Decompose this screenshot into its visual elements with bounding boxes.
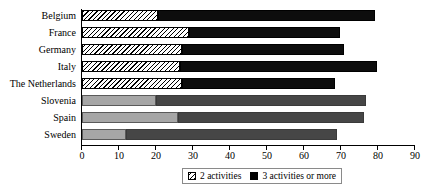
x-axis-tick-label: 80 [363,150,393,162]
black-swatch-icon [250,172,258,180]
bar-segment-three-or-more [180,61,377,72]
bar-segment-three-or-more [189,27,340,38]
bar-segment-three-or-more [126,129,337,140]
bar-segment-two-activities [82,44,182,55]
x-axis-tick-label: 0 [67,150,97,162]
x-axis-line [81,145,415,146]
bar-segment-two-activities [82,95,156,106]
legend-item-two-activities: 2 activities [188,171,241,181]
category-label-germany: Germany [0,44,76,55]
x-axis-tick-label: 60 [289,150,319,162]
category-label-belgium: Belgium [0,10,76,21]
legend-label: 3 activities or more [262,171,336,181]
bar-chart: Belgium France Germany Italy The Netherl… [0,0,432,194]
bar-segment-three-or-more [182,44,344,55]
bar-segment-two-activities [82,10,158,21]
x-axis-tick-label: 20 [141,150,171,162]
bar-segment-two-activities [82,61,180,72]
x-axis-tick-label: 30 [178,150,208,162]
bar-segment-three-or-more [178,112,364,123]
legend-item-three-or-more: 3 activities or more [250,171,336,181]
category-label-spain: Spain [0,112,76,123]
hatch-swatch-icon [188,172,196,180]
category-label-slovenia: Slovenia [0,95,76,106]
bar-segment-two-activities [82,112,178,123]
bar-segment-three-or-more [158,10,375,21]
x-axis-tick-label: 50 [252,150,282,162]
x-axis-tick-label: 10 [104,150,134,162]
chart-legend: 2 activities 3 activities or more [182,168,342,184]
bar-segment-two-activities [82,27,189,38]
category-label-sweden: Sweden [0,129,76,140]
plot-area [82,9,414,145]
x-axis-tick-label: 70 [326,150,356,162]
x-axis-tick-label: 40 [215,150,245,162]
bar-segment-two-activities [82,78,182,89]
legend-label: 2 activities [200,171,241,181]
x-axis-tick-label: 90 [400,150,430,162]
category-label-the-netherlands: The Netherlands [0,78,76,89]
category-label-italy: Italy [0,61,76,72]
bar-segment-three-or-more [156,95,366,106]
bar-segment-three-or-more [182,78,335,89]
bar-segment-two-activities [82,129,126,140]
category-label-france: France [0,27,76,38]
